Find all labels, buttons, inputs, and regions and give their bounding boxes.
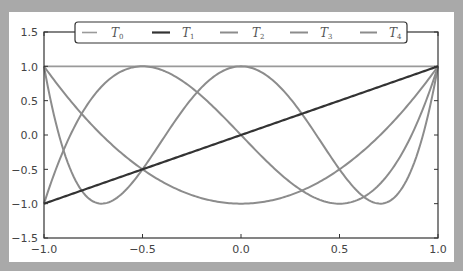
y-tick-label: 0.5: [21, 95, 39, 108]
legend: T0 T1 T2 T3 T4: [75, 22, 407, 43]
y-tick-label: 0.0: [21, 129, 39, 142]
x-tick-label: −0.5: [129, 243, 156, 256]
chebyshev-chart: 1.5 1.0 0.5 0.0 −0.5 −1.0 −1.5 −1.0 −0.5…: [0, 0, 463, 271]
x-tick-label: 0.5: [331, 243, 349, 256]
x-tick-label: 1.0: [429, 243, 447, 256]
x-tick-labels: −1.0 −0.5 0.0 0.5 1.0: [31, 243, 447, 256]
legend-box: [75, 22, 407, 43]
y-tick-label: 1.5: [21, 26, 39, 39]
y-tick-labels: 1.5 1.0 0.5 0.0 −0.5 −1.0 −1.5: [11, 26, 38, 245]
x-tick-label: 0.0: [232, 243, 250, 256]
y-tick-label: −0.5: [11, 164, 38, 177]
y-tick-label: 1.0: [21, 61, 39, 74]
y-tick-label: −1.0: [11, 198, 38, 211]
x-tick-label: −1.0: [31, 243, 58, 256]
